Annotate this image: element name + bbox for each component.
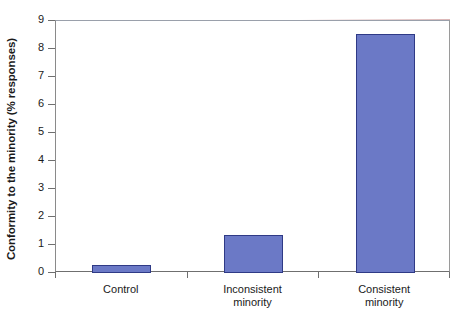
y-tick-label-text: 5 <box>22 126 44 137</box>
y-tick-label: 3 <box>22 182 44 194</box>
x-tick-mark <box>187 272 188 278</box>
y-tick-label: 7 <box>22 70 44 82</box>
bar <box>224 235 283 273</box>
y-tick-label: 2 <box>22 210 44 222</box>
y-tick-label-text: 3 <box>22 182 44 193</box>
y-tick-label: 8 <box>22 42 44 54</box>
x-axis-category-label: Consistentminority <box>318 283 450 309</box>
bar <box>92 265 151 273</box>
y-tick-label: 9 <box>22 14 44 26</box>
x-tick-mark <box>55 272 56 278</box>
y-tick-mark <box>48 76 55 77</box>
y-tick-label: 5 <box>22 126 44 138</box>
plot-area <box>55 20 450 272</box>
y-tick-mark <box>48 272 55 273</box>
y-tick-label-text: 7 <box>22 70 44 81</box>
y-tick-mark <box>48 48 55 49</box>
x-tick-mark <box>318 272 319 278</box>
y-axis-title: Conformity to the minority (% responses) <box>0 6 22 292</box>
y-tick-mark <box>48 244 55 245</box>
x-axis-category-label-line: Inconsistent <box>187 283 319 296</box>
y-tick-label: 6 <box>22 98 44 110</box>
y-tick-label-text: 9 <box>22 14 44 25</box>
y-tick-mark <box>48 188 55 189</box>
x-axis-category-label: Control <box>55 283 187 296</box>
y-tick-mark <box>48 216 55 217</box>
x-axis-category-label-line: minority <box>318 296 450 309</box>
bar-chart: Conformity to the minority (% responses)… <box>0 0 466 320</box>
y-tick-mark <box>48 160 55 161</box>
y-tick-label-text: 0 <box>22 266 44 277</box>
y-tick-label-text: 2 <box>22 210 44 221</box>
y-tick-label: 1 <box>22 238 44 250</box>
y-tick-mark <box>48 104 55 105</box>
x-axis-category-label-line: Control <box>55 283 187 296</box>
y-tick-label-text: 4 <box>22 154 44 165</box>
y-tick-label: 0 <box>22 266 44 278</box>
y-tick-mark <box>48 20 55 21</box>
x-tick-mark <box>449 272 450 278</box>
y-tick-label-text: 8 <box>22 42 44 53</box>
y-tick-label-text: 1 <box>22 238 44 249</box>
x-axis-category-label-line: Consistent <box>318 283 450 296</box>
y-tick-label-text: 6 <box>22 98 44 109</box>
y-tick-label: 4 <box>22 154 44 166</box>
x-axis-category-label-line: minority <box>187 296 319 309</box>
x-axis-category-label: Inconsistentminority <box>187 283 319 309</box>
bar <box>356 34 415 273</box>
y-tick-mark <box>48 132 55 133</box>
